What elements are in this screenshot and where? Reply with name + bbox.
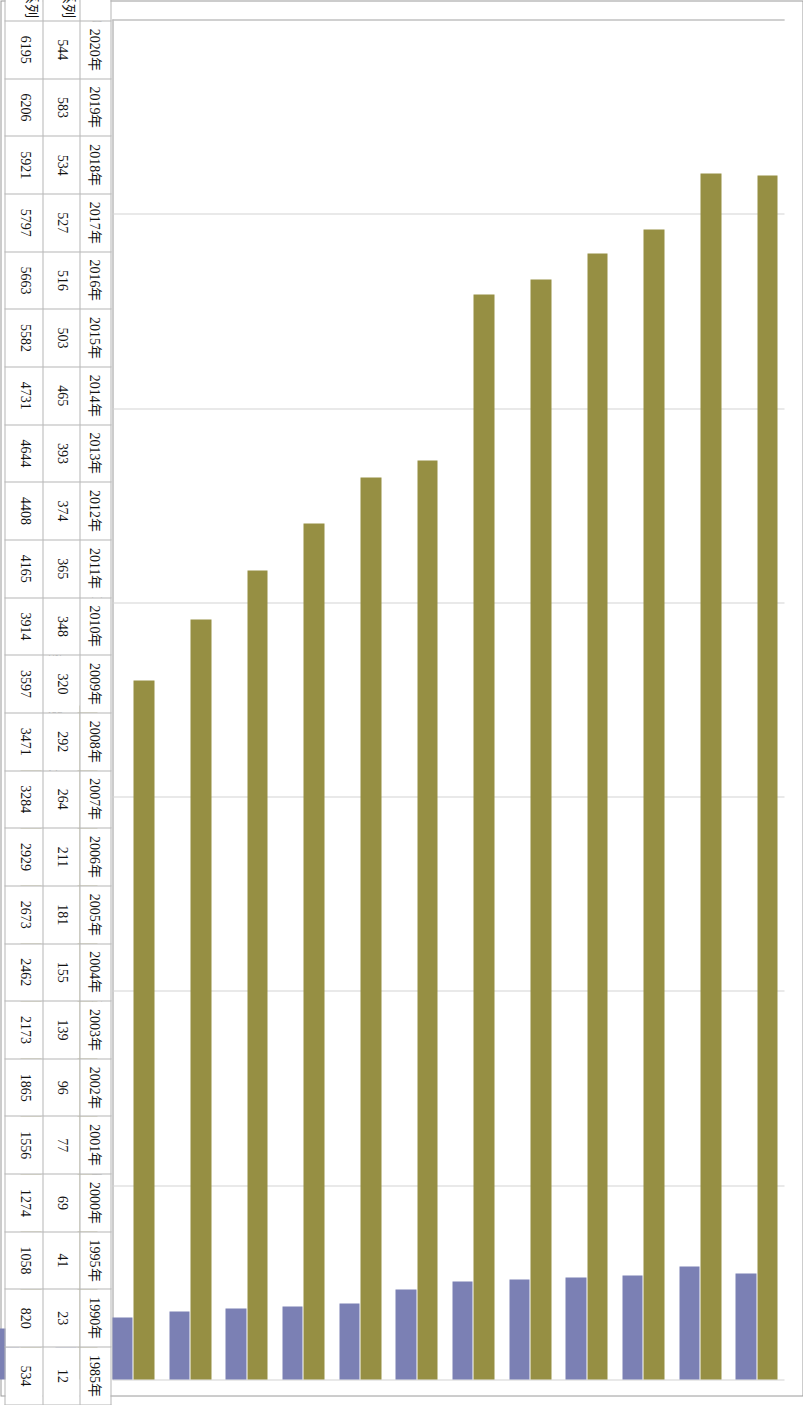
data-table-category-cell: 2009年 <box>80 655 111 713</box>
gridline-4000 <box>112 602 784 603</box>
data-table-category-cell: 2010年 <box>80 597 111 655</box>
data-table-category-cell: 2005年 <box>80 885 111 943</box>
bar-series2 <box>643 229 663 1379</box>
data-table-value-cell: 583 <box>42 78 79 136</box>
data-table-value-cell: 1556 <box>5 1116 42 1174</box>
data-table-series2-row: 系列26195620659215797566355824731464444084… <box>5 0 42 1404</box>
data-table-category-cell: 2020年 <box>80 21 111 79</box>
data-table-value-cell: 264 <box>42 770 79 828</box>
bar-series2 <box>190 619 210 1379</box>
data-table-value-cell: 820 <box>5 1289 42 1347</box>
category-axis-line <box>112 19 113 1379</box>
data-table-category-cell: 2019年 <box>80 78 111 136</box>
data-table-category-cell: 1995年 <box>80 1231 111 1289</box>
data-table-value-cell: 3914 <box>5 597 42 655</box>
gridline-6000 <box>112 213 784 214</box>
data-table-value-cell: 5921 <box>5 136 42 194</box>
data-table-category-cell: 2013年 <box>80 424 111 482</box>
data-table-value-cell: 374 <box>42 482 79 540</box>
bar-series2 <box>530 279 550 1379</box>
data-table-value-cell: 2673 <box>5 885 42 943</box>
bar-series2 <box>247 570 267 1379</box>
data-table-value-cell: 3471 <box>5 712 42 770</box>
bar-series2 <box>303 523 323 1379</box>
data-table-value-cell: 23 <box>42 1289 79 1347</box>
data-table-category-cell: 2012年 <box>80 482 111 540</box>
bar-series2 <box>700 173 720 1379</box>
data-table-value-cell: 211 <box>42 828 79 886</box>
bar-series1 <box>452 1281 472 1379</box>
data-table-value-cell: 2462 <box>5 943 42 1001</box>
data-table-category-cell: 2008年 <box>80 712 111 770</box>
bar-series1 <box>735 1273 755 1379</box>
data-table-category-cell: 2006年 <box>80 828 111 886</box>
data-table-value-cell: 12 <box>42 1347 79 1405</box>
data-table-value-cell: 155 <box>42 943 79 1001</box>
data-table-value-cell: 77 <box>42 1116 79 1174</box>
bar-series2 <box>587 253 607 1379</box>
data-table-value-cell: 465 <box>42 366 79 424</box>
data-table-value-cell: 181 <box>42 885 79 943</box>
bar-series2 <box>360 477 380 1379</box>
data-table-value-cell: 527 <box>42 193 79 251</box>
data-table-value-cell: 69 <box>42 1174 79 1232</box>
data-table-value-cell: 139 <box>42 1001 79 1059</box>
data-table-value-cell: 534 <box>42 136 79 194</box>
plot-area <box>112 19 784 1379</box>
data-table-row-label: 系列1 <box>44 0 75 17</box>
data-table-category-cell: 2004年 <box>80 943 111 1001</box>
bar-series1 <box>339 1303 359 1379</box>
gridline-5000 <box>112 408 784 409</box>
bar-series1 <box>565 1277 585 1379</box>
data-table-category-cell: 1985年 <box>80 1347 111 1405</box>
data-table-value-cell: 292 <box>42 712 79 770</box>
data-table-category-cell: 2000年 <box>80 1174 111 1232</box>
bar-series2 <box>133 680 153 1379</box>
data-table-category-cell: 2003年 <box>80 1001 111 1059</box>
data-table-value-cell: 96 <box>42 1058 79 1116</box>
data-table-value-cell: 4731 <box>5 366 42 424</box>
data-table-value-cell: 516 <box>42 251 79 309</box>
data-table-category-cell: 2002年 <box>80 1058 111 1116</box>
data-table-value-cell: 348 <box>42 597 79 655</box>
data-table-value-cell: 4165 <box>5 539 42 597</box>
data-table-value-cell: 3284 <box>5 770 42 828</box>
data-table-value-cell: 4408 <box>5 482 42 540</box>
data-table-category-cell: 2011年 <box>80 539 111 597</box>
data-table-row-header: 系列1 <box>42 0 79 21</box>
data-table-value-cell: 393 <box>42 424 79 482</box>
data-table: 2020年2019年2018年2017年2016年2015年2014年2013年… <box>4 0 111 1405</box>
data-table-category-cell: 2018年 <box>80 136 111 194</box>
data-table-value-cell: 4644 <box>5 424 42 482</box>
data-table-value-cell: 534 <box>5 1347 42 1405</box>
data-table-row-header <box>80 0 111 21</box>
bar-series2 <box>757 175 777 1379</box>
bar-series1 <box>679 1266 699 1379</box>
bar-series1 <box>622 1275 642 1379</box>
data-table-value-cell: 6195 <box>5 21 42 79</box>
data-table-value-cell: 1058 <box>5 1231 42 1289</box>
gridline-7000 <box>112 19 784 20</box>
data-table-value-cell: 544 <box>42 21 79 79</box>
bar-series1 <box>282 1306 302 1379</box>
data-table-value-cell: 1274 <box>5 1174 42 1232</box>
bar-series1 <box>509 1279 529 1379</box>
data-table-value-cell: 2173 <box>5 1001 42 1059</box>
data-table-value-cell: 5663 <box>5 251 42 309</box>
data-table-series1-row: 系列15445835345275165034653933743653483202… <box>42 0 79 1404</box>
data-table-value-cell: 5797 <box>5 193 42 251</box>
bar-series2 <box>473 294 493 1379</box>
data-table-value-cell: 41 <box>42 1231 79 1289</box>
gridline-2000 <box>112 990 784 991</box>
data-table-row-header: 系列2 <box>5 0 42 21</box>
data-table-value-cell: 3597 <box>5 655 42 713</box>
data-table-category-cell: 2016年 <box>80 251 111 309</box>
data-table-value-cell: 5582 <box>5 309 42 367</box>
data-table-value-cell: 503 <box>42 309 79 367</box>
bar-series1 <box>395 1289 415 1379</box>
data-table-category-cell: 2017年 <box>80 193 111 251</box>
data-table-category-cell: 2014年 <box>80 366 111 424</box>
data-table-category-cell: 2015年 <box>80 309 111 367</box>
bar-series2 <box>417 460 437 1379</box>
